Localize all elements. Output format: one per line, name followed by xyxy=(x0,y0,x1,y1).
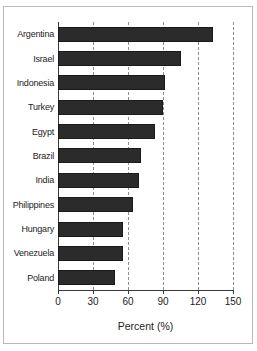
category-label-argentina: Argentina xyxy=(0,22,54,46)
x-axis-line xyxy=(58,290,233,291)
chart-figure: ArgentinaIsraelIndonesiaTurkeyEgyptBrazi… xyxy=(0,0,257,351)
bar-row xyxy=(58,241,233,265)
bar-row xyxy=(58,22,233,46)
bar-row xyxy=(58,168,233,192)
x-tick-30 xyxy=(93,290,94,294)
x-tick-label-0: 0 xyxy=(55,296,61,307)
bar-row xyxy=(58,144,233,168)
bar-hungary xyxy=(58,222,123,237)
x-tick-120 xyxy=(198,290,199,294)
category-label-turkey: Turkey xyxy=(0,95,54,119)
x-tick-label-90: 90 xyxy=(157,296,168,307)
plot-area xyxy=(58,22,233,290)
x-tick-label-150: 150 xyxy=(225,296,242,307)
category-label-egypt: Egypt xyxy=(0,119,54,143)
category-label-hungary: Hungary xyxy=(0,217,54,241)
category-label-brazil: Brazil xyxy=(0,144,54,168)
bar-philippines xyxy=(58,197,133,212)
x-tick-label-120: 120 xyxy=(190,296,207,307)
x-axis-title: Percent (%) xyxy=(58,320,233,332)
gridline-150 xyxy=(233,22,234,290)
bar-series xyxy=(58,22,233,290)
bar-row xyxy=(58,71,233,95)
x-tick-label-30: 30 xyxy=(87,296,98,307)
x-tick-90 xyxy=(163,290,164,294)
bar-row xyxy=(58,119,233,143)
category-label-india: India xyxy=(0,168,54,192)
bar-brazil xyxy=(58,148,141,163)
category-label-poland: Poland xyxy=(0,266,54,290)
category-label-venezuela: Venezuela xyxy=(0,241,54,265)
bar-poland xyxy=(58,270,115,285)
bar-row xyxy=(58,266,233,290)
bar-row xyxy=(58,217,233,241)
x-tick-label-60: 60 xyxy=(122,296,133,307)
bar-row xyxy=(58,193,233,217)
bar-row xyxy=(58,95,233,119)
bar-turkey xyxy=(58,100,163,115)
bar-indonesia xyxy=(58,75,165,90)
category-label-israel: Israel xyxy=(0,46,54,70)
x-tick-150 xyxy=(233,290,234,294)
x-tick-0 xyxy=(58,290,59,294)
x-tick-60 xyxy=(128,290,129,294)
category-axis-labels: ArgentinaIsraelIndonesiaTurkeyEgyptBrazi… xyxy=(0,22,54,290)
bar-row xyxy=(58,46,233,70)
category-label-indonesia: Indonesia xyxy=(0,71,54,95)
category-label-philippines: Philippines xyxy=(0,193,54,217)
bar-egypt xyxy=(58,124,155,139)
bar-india xyxy=(58,173,139,188)
bar-argentina xyxy=(58,27,213,42)
bar-venezuela xyxy=(58,246,123,261)
bar-israel xyxy=(58,51,181,66)
